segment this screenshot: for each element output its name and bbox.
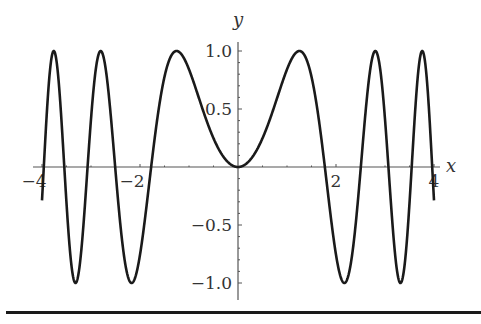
x-tick-label: −2 (119, 171, 144, 191)
y-tick-label: −1.0 (191, 273, 232, 293)
y-tick-label: 0.5 (205, 99, 232, 119)
y-tick-label: 1.0 (205, 41, 232, 61)
bottom-divider-rule (6, 311, 481, 314)
y-axis-label: y (232, 9, 244, 30)
x-tick-label: 2 (331, 171, 342, 191)
function-plot: −4−2241.00.5−0.5−1.0 x y (0, 0, 481, 324)
y-tick-label: −0.5 (191, 215, 232, 235)
x-axis-label: x (446, 155, 456, 176)
